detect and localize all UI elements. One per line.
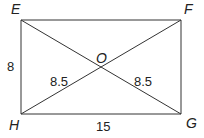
measure-segment-og: 8.5 [134,74,152,89]
measure-side-eh: 8 [7,59,14,74]
measure-segment-ho: 8.5 [50,74,68,89]
geometry-diagram: E F G H O 8 15 8.5 8.5 [0,0,204,138]
vertex-label-h: H [9,117,20,133]
vertex-label-g: G [186,115,197,131]
vertex-label-o: O [96,50,107,66]
vertex-label-e: E [11,1,21,17]
vertex-label-f: F [184,1,194,17]
measure-side-hg: 15 [96,119,110,134]
